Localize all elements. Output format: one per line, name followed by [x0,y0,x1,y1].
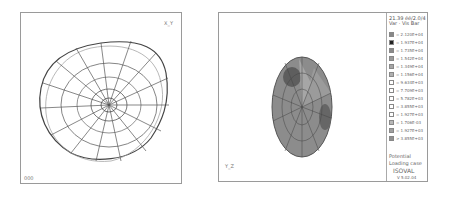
legend-value: > 3.855E+03 [396,136,423,141]
view-id-label: 000 [24,175,34,181]
legend-swatch [389,112,394,117]
left-viewport[interactable]: X_Y 000 [20,12,182,184]
legend-entry: = 9.634E+03 [389,79,423,86]
legend-swatch [389,48,394,53]
legend-value: = 1.349E+04 [396,64,423,69]
legend-swatch [389,128,394,133]
legend-entry: = 1.349E+04 [389,63,423,70]
legend-case: Loading case [389,160,422,166]
legend-header-line: Var · Vis Bar [389,21,426,26]
legend-swatch [389,104,394,109]
legend-entry: = 1.156E+04 [389,71,423,78]
axis-triad-icon: Y_Z [225,163,234,169]
legend-swatch [389,72,394,77]
legend-value: = 1.156E+04 [396,72,423,77]
legend-value: = 1.927E+03 [396,128,423,133]
legend-mode: ISOVAL [393,167,414,174]
legend-swatch [389,56,394,61]
legend-value: = 1.706E-03 [396,120,421,125]
legend-value: = 2.120E+04 [396,32,423,37]
legend-quantity: Potential [389,153,411,159]
legend-value: = 1.735E+04 [396,48,423,53]
legend-swatch [389,32,394,37]
legend-entry: = 2.120E+04 [389,31,423,38]
legend-header: 21.39 éé/2.0/4 Var · Vis Bar [389,16,426,26]
legend-entry: = 1.735E+04 [389,47,423,54]
legend-value: = 1.937E+04 [396,40,423,45]
legend-swatch [389,88,394,93]
legend-value: = 9.634E+03 [396,80,423,85]
legend-entry: = 3.855E+03 [389,103,423,110]
axis-triad-icon: X_Y [164,20,173,26]
right-viewport[interactable]: Y_Z 21.39 éé/2.0/4 Var · Vis Bar = 2.120… [218,12,428,182]
legend-value: = 1.542E+04 [396,56,423,61]
legend-version: V 5.02.04 [397,175,416,180]
legend-value: = 1.927E+03 [396,112,423,117]
legend-entry: = 5.782E+03 [389,95,423,102]
legend-value: = 5.782E+03 [396,96,423,101]
legend-swatch [389,136,394,141]
legend-entry: = 1.937E+04 [389,39,423,46]
legend-entry: = 1.927E+03 [389,127,423,134]
legend-entry: = 7.709E+03 [389,87,423,94]
legend-entry: = 1.706E-03 [389,119,421,126]
legend-value: = 7.709E+03 [396,88,423,93]
legend-entry: = 1.927E+03 [389,111,423,118]
legend-entry: = 1.542E+04 [389,55,423,62]
legend-swatch [389,120,394,125]
color-legend: 21.39 éé/2.0/4 Var · Vis Bar = 2.120E+04… [386,13,429,181]
wireframe-mesh [21,13,181,183]
legend-entry: > 3.855E+03 [389,135,423,142]
contour-plot [219,13,385,181]
legend-swatch [389,64,394,69]
legend-swatch [389,40,394,45]
legend-swatch [389,80,394,85]
legend-swatch [389,96,394,101]
legend-value: = 3.855E+03 [396,104,423,109]
